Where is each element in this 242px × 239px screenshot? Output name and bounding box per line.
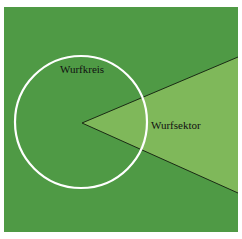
throwing-area-diagram: Wurfkreis Wurfsektor (0, 0, 242, 239)
sector-label: Wurfsektor (151, 119, 201, 131)
circle-label: Wurfkreis (60, 63, 104, 75)
